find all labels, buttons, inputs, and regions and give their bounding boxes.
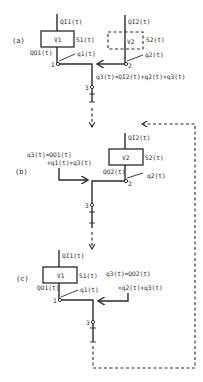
equation-c-line1: q3(t)=QO2(t) (106, 270, 151, 278)
node-1-c (58, 298, 61, 301)
node-3-label: 3 (85, 84, 89, 91)
reservoir2-outflow-label-b: QO2(t) (103, 168, 125, 175)
panel-b-label: (b) (15, 168, 28, 176)
panel-a: (a) V1 QI1(t) S1(t) QO1(t) q1(t) 1 V2 QI… (12, 14, 185, 127)
node-3-label-c: 3 (86, 319, 90, 326)
panel-b: (b) V2 QI2(t) S2(t) QO2(t) q2(t) 2 q3(t)… (15, 133, 166, 249)
reservoir2-name: V2 (127, 38, 135, 45)
flow-arrow-2-to-junction-c (98, 293, 128, 301)
reservoir2-storage-label-b: S2(t) (145, 154, 164, 161)
node-1-label-c: 1 (53, 297, 57, 304)
main-channel (60, 64, 92, 102)
reservoir2-inflow-label-b: QI2(t) (128, 134, 150, 141)
feedback-loop-arrow (93, 124, 195, 368)
local-inflow1-label-c: q1(t) (80, 286, 99, 294)
reservoir1-inflow-label-c: QI1(t) (62, 252, 84, 259)
node-3 (90, 85, 93, 88)
main-channel-b (92, 181, 124, 228)
local-inflow2-label: q2(t) (145, 51, 164, 59)
local-inflow1-line (59, 54, 75, 61)
equation-b-line1: q3(t)=QO1(t) (27, 151, 72, 159)
equation-c-line2: +q2(t)+q3(t) (118, 284, 163, 292)
local-inflow2-label-b: q2(t) (147, 172, 166, 180)
reservoir2-storage-label: S2(t) (146, 36, 165, 43)
node-3-b (90, 203, 93, 206)
reservoir1-outflow-label: QO1(t) (30, 49, 52, 56)
panel-a-label: (a) (12, 37, 25, 45)
node-2-label-b: 2 (128, 180, 132, 187)
reservoir1-storage-label: S1(t) (76, 36, 95, 43)
node-1 (56, 62, 59, 65)
flow-arrow-1-to-junction (59, 168, 88, 180)
node-2-label: 2 (128, 62, 132, 69)
local-inflow2-line (127, 55, 143, 61)
local-inflow2-line-b (127, 173, 143, 178)
reservoir1-storage-label-c: S1(t) (79, 272, 98, 279)
reservoir2-name-b: V2 (122, 154, 130, 161)
node-3-label-b: 3 (85, 202, 89, 209)
reservoir1-name-c: V1 (57, 272, 65, 279)
equation-b-line2: +q1(t)+q3(t) (47, 159, 92, 167)
local-inflow1-label: q1(t) (77, 50, 96, 58)
panel-c: (c) V1 QI1(t) S1(t) QO1(t) q1(t) 1 q3(t)… (16, 250, 163, 342)
reservoir1-name: V1 (54, 36, 62, 43)
reservoir2-inflow-label: QI2(t) (128, 18, 150, 25)
panel-c-label: (c) (16, 275, 29, 283)
reservoir1-outflow-label-c: QO1(t) (37, 284, 59, 291)
node-3-c (91, 320, 94, 323)
reservoir-sequence-diagram: (a) V1 QI1(t) S1(t) QO1(t) q1(t) 1 V2 QI… (0, 0, 203, 382)
reservoir1-inflow-label: QI1(t) (60, 18, 82, 25)
local-inflow1-line-c (61, 290, 78, 297)
equation-a: q3(t)=QI2(t)+q2(t)+q3(t) (96, 73, 185, 81)
node-1-label: 1 (51, 61, 55, 68)
